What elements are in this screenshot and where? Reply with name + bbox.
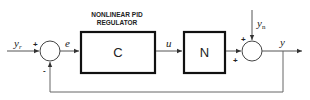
regulator-title-line-1: NONLINEAR PID [91, 11, 143, 18]
regulator-title-line-2: REGULATOR [97, 19, 138, 26]
summing-junction-1 [40, 41, 60, 61]
sum2-left-plus-sign: + [233, 56, 238, 65]
block-c-label: C [113, 45, 122, 60]
summing-junction-2 [242, 41, 262, 61]
output-label: y [279, 36, 285, 48]
block-n-label: N [200, 45, 209, 60]
noise-label: yn [256, 17, 266, 31]
block-diagram: yr + - e NONLINEAR PID REGULATOR C u N +… [0, 0, 310, 100]
sum2-top-plus-sign: + [241, 35, 246, 44]
sum1-plus-sign: + [33, 40, 38, 49]
sum1-minus-sign: - [43, 66, 46, 75]
error-label: e [65, 37, 70, 49]
control-label: u [166, 37, 172, 49]
reference-label: yr [13, 37, 22, 51]
